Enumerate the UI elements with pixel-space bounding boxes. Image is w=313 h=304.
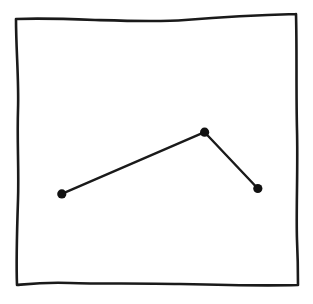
sketch-line-chart xyxy=(0,0,313,304)
chart-canvas xyxy=(0,0,313,304)
series-line xyxy=(62,132,258,194)
data-point-2 xyxy=(200,128,209,137)
data-point-1 xyxy=(57,189,66,198)
line-series xyxy=(57,128,262,199)
data-point-3 xyxy=(253,184,262,193)
chart-frame xyxy=(16,14,298,285)
